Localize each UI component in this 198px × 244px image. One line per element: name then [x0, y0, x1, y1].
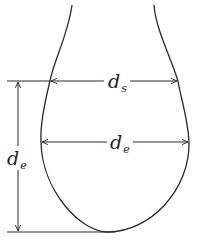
pendant-drop-diagram: ds de de — [0, 0, 198, 244]
de-label: de — [110, 131, 130, 156]
ds-label: ds — [108, 70, 127, 95]
drop-outline — [41, 5, 189, 232]
